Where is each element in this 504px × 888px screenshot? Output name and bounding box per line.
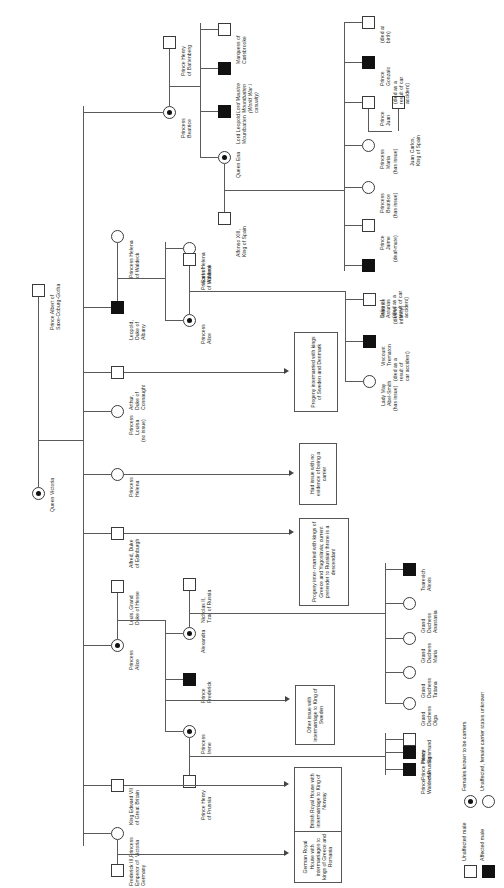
node-prince-henry-prussia-son[interactable] xyxy=(403,746,416,759)
node-princess-alice-hesse[interactable] xyxy=(111,639,124,652)
label-princess-alice-albany: Princess Alice xyxy=(200,324,212,344)
node-tsarevich-alexis[interactable] xyxy=(403,563,416,576)
note-king-of-norway: British Royal House with intermarriage t… xyxy=(294,767,342,835)
node-alfred-duke-edinburgh[interactable] xyxy=(111,527,124,540)
node-prince-henry-battenberg[interactable] xyxy=(163,36,176,49)
legend-square-open xyxy=(464,865,477,878)
line-alfred-to-note xyxy=(124,533,289,534)
node-viscount-trematon[interactable] xyxy=(363,335,376,348)
node-earl-of-athlone[interactable] xyxy=(183,253,196,266)
line-victoria-to-note xyxy=(117,854,284,855)
node-prince-jaime[interactable] xyxy=(362,219,375,232)
label-princess-louisa: Princess Louisa xyxy=(128,415,140,435)
line-edward-to-note xyxy=(124,785,284,786)
line-ena-child-maria xyxy=(344,145,362,146)
node-arthur-duke-connaught[interactable] xyxy=(111,366,124,379)
node-grand-duchess-anastasia[interactable] xyxy=(403,597,416,610)
node-frederick-iii[interactable] xyxy=(111,864,124,877)
node-princess-victoria[interactable] xyxy=(111,827,124,840)
label-king-edward-vii: King Edward VII of Great Britain xyxy=(128,788,140,825)
node-prince-sigismund[interactable] xyxy=(403,733,416,746)
label-prince-henry-prussia: Prince Henry of Prussia xyxy=(200,790,212,820)
line-founder-couple xyxy=(38,297,39,487)
node-prince-albert[interactable] xyxy=(32,284,45,297)
label-princess-helena-waldeck: Princess Helena of Waldeck xyxy=(128,240,140,278)
note-king-of-sweden: Other issue with intermarriage to King o… xyxy=(295,685,335,745)
line-beatrice-child-carisbrooke xyxy=(200,29,218,30)
line-ena-drop xyxy=(224,190,344,191)
node-lady-may-abel-smith[interactable] xyxy=(363,375,376,388)
label-princess-alice-hesse: Princess Alice xyxy=(128,650,140,670)
node-marquess-carisbrooke[interactable] xyxy=(218,23,231,36)
node-king-edward-vii[interactable] xyxy=(111,779,124,792)
label-leopold-duke-albany: Leopold, Duke of Albany xyxy=(128,320,146,340)
node-princess-alice-albany[interactable] xyxy=(183,314,196,327)
label-princess-maria-note: (has issue) xyxy=(392,149,398,174)
line-hesse-child-frederick xyxy=(165,679,183,680)
label-maurice: Maurice xyxy=(380,299,386,317)
node-queen-victoria[interactable] xyxy=(32,487,45,500)
arrow-victoria-note xyxy=(284,850,289,856)
node-alfonso-xiii[interactable] xyxy=(218,212,231,225)
node-princess-irene[interactable] xyxy=(183,725,196,738)
pedigree-chart: Queen Victoria Prince Albert of Saxe-Cob… xyxy=(0,0,504,888)
node-prince-juan[interactable] xyxy=(362,96,375,109)
node-princess-beatrice-spain[interactable] xyxy=(362,181,375,194)
node-lord-maurice-mountbatten[interactable] xyxy=(218,62,231,75)
node-prince-gonzalo[interactable] xyxy=(362,56,375,69)
line-romanov-maria xyxy=(385,638,403,639)
line-prussia-sigismund xyxy=(385,739,403,740)
node-prince-henry-prussia[interactable] xyxy=(183,775,196,788)
node-princess-maria[interactable] xyxy=(362,139,375,152)
node-princess-beatrice[interactable] xyxy=(163,106,176,119)
arrow-arthur-note xyxy=(284,368,289,374)
label-arthur-duke-connaught: Arthur, Duke of Connaught xyxy=(128,385,146,410)
line-hesse-child-alexandra xyxy=(165,633,183,634)
node-lord-leopold-mountbatten[interactable] xyxy=(218,105,231,118)
label-viscount-trematon: Viscount Trematon xyxy=(380,344,392,366)
line-leopold-child-charles xyxy=(165,248,183,249)
node-princess-helena[interactable] xyxy=(111,468,124,481)
line-beatrice-couple xyxy=(169,49,170,106)
node-duke-of-asturias[interactable] xyxy=(362,259,375,272)
label-grand-duchess-maria: Grand Duchess Maria xyxy=(420,643,438,663)
node-grand-duchess-maria[interactable] xyxy=(403,632,416,645)
label-princess-beatrice: Princess Beatrice xyxy=(180,118,192,138)
arrow-hesse-other-issue xyxy=(285,696,290,702)
line-juan-down xyxy=(368,109,369,131)
line-juan-to-carlos xyxy=(368,131,392,132)
node-prince-frederick[interactable] xyxy=(183,673,196,686)
line-leopold-sibship xyxy=(165,242,166,320)
node-grand-duchess-olga[interactable] xyxy=(403,697,416,710)
label-grand-duchess-anastasia: Grand Duchess Anastasia xyxy=(420,610,438,633)
arrow-edward-note xyxy=(284,781,289,787)
node-queen-ena[interactable] xyxy=(218,151,231,164)
node-princess-helena-waldeck[interactable] xyxy=(111,230,124,243)
node-leopold-duke-albany[interactable] xyxy=(111,301,124,314)
node-died-at-birth[interactable] xyxy=(362,16,375,29)
node-alexandra[interactable] xyxy=(183,627,196,640)
label-princess-irene: Princess Irene xyxy=(200,734,212,754)
line-arthur-to-note xyxy=(124,372,284,373)
line-ena-child-juan xyxy=(344,102,362,103)
legend-label-carrier-unknown: Unaffected, female carrier status unknow… xyxy=(479,692,485,791)
line-victoria-couple xyxy=(117,840,118,864)
node-prince-waldemar[interactable] xyxy=(403,763,416,776)
node-maurice[interactable] xyxy=(363,293,376,306)
legend-label-affected-male: Affected male xyxy=(479,829,485,861)
node-princess-louisa[interactable] xyxy=(111,405,124,418)
label-lord-maurice-mountbatten: Lord Maurice Mountbatten (World War I ca… xyxy=(235,83,259,113)
line-leopold-couple xyxy=(117,243,118,301)
line-prussia-henry xyxy=(385,752,403,753)
node-louis-grand-duke-hesse[interactable] xyxy=(111,580,124,593)
line-ena-sibship xyxy=(344,22,345,271)
line-ena-child-gonzalo xyxy=(344,62,362,63)
label-princess-beatrice-spain-note: (has issue) xyxy=(392,193,398,218)
label-prince-gonzalo: Prince Gonzalo xyxy=(379,67,391,86)
line-irene-drop xyxy=(189,756,385,757)
label-maurice-note: (died in infancy) xyxy=(392,306,404,324)
node-nicholas-ii[interactable] xyxy=(183,578,196,591)
node-grand-duchess-tatiana[interactable] xyxy=(403,666,416,679)
line-romanov-olga xyxy=(385,703,403,704)
legend-circle-open xyxy=(482,795,495,808)
